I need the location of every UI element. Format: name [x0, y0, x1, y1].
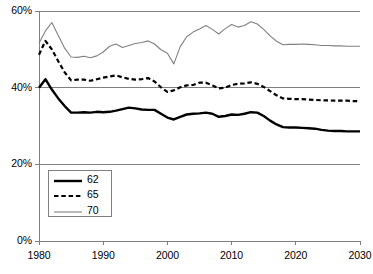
series-line-70 [39, 22, 360, 64]
legend-swatch-65 [53, 188, 83, 200]
chart-legend: 62 65 70 [48, 170, 112, 217]
x-axis-label-2010: 2010 [212, 249, 252, 261]
legend-label-65: 65 [87, 189, 99, 200]
x-axis-label-2020: 2020 [276, 249, 316, 261]
legend-label-70: 70 [87, 205, 99, 216]
series-line-65 [39, 41, 360, 101]
chart-plot-area [0, 0, 373, 274]
legend-label-62: 62 [87, 174, 99, 185]
x-axis-label-2030: 2030 [340, 249, 373, 261]
legend-item-62: 62 [49, 171, 111, 187]
x-axis-label-1980: 1980 [19, 249, 59, 261]
y-axis-label-60pct: 60% [0, 4, 32, 16]
legend-swatch-62 [53, 173, 83, 185]
x-axis-label-2000: 2000 [147, 249, 187, 261]
x-axis-label-1990: 1990 [83, 249, 123, 261]
legend-item-65: 65 [49, 187, 111, 203]
y-axis-label-20pct: 20% [0, 157, 32, 169]
y-axis-label-0pct: 0% [0, 234, 32, 246]
series-line-62 [39, 79, 360, 131]
legend-item-70: 70 [49, 202, 111, 218]
legend-swatch-70 [53, 204, 83, 216]
chart-container: 0%20%40%60% 198019902000201020202030 62 … [0, 0, 373, 274]
y-axis-label-40pct: 40% [0, 81, 32, 93]
